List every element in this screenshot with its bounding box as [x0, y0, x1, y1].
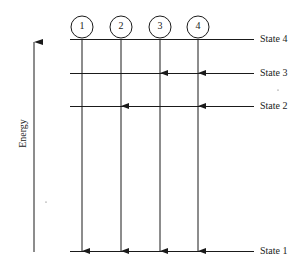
speck — [277, 89, 278, 90]
path-4-label: 4 — [188, 20, 208, 31]
energy-axis-label: Energy — [17, 114, 28, 154]
speck — [45, 201, 46, 202]
path-3-label: 3 — [150, 20, 170, 31]
state-4-label: State 4 — [260, 33, 288, 44]
path-2-label: 2 — [111, 20, 131, 31]
state-2-label: State 2 — [260, 100, 288, 111]
state-3-label: State 3 — [260, 67, 288, 78]
path-1-label: 1 — [72, 20, 92, 31]
state-1-label: State 1 — [260, 245, 288, 256]
